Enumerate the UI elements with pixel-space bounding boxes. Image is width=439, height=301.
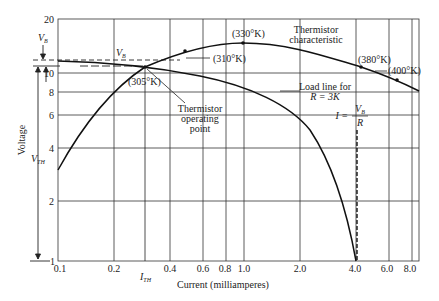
x-tick: 0.1 bbox=[54, 263, 67, 274]
ith-label: ITH bbox=[139, 271, 152, 283]
x-tick: 2.0 bbox=[294, 263, 307, 274]
characteristic-label-line2: characteristic bbox=[289, 34, 343, 45]
x-tick: 0.4 bbox=[164, 263, 177, 274]
label-305k: (305°K) bbox=[128, 76, 161, 88]
y-axis-ticks: 20 10 8 6 4 2 1 bbox=[44, 14, 55, 267]
operating-point-label-line3: point bbox=[190, 123, 211, 134]
x-tick: 1.0 bbox=[238, 263, 251, 274]
label-380k: (380°K) bbox=[358, 54, 391, 66]
x-axis-label: Current (milliamperes) bbox=[177, 279, 269, 291]
y-tick: 20 bbox=[44, 14, 54, 25]
x-axis-ticks: 0.1 0.2 0.4 0.6 0.8 1.0 2.0 4.0 6.0 8.0 bbox=[54, 263, 417, 274]
vb-arrow bbox=[41, 45, 46, 59]
point-310k bbox=[183, 49, 187, 53]
x-tick: 6.0 bbox=[381, 263, 394, 274]
temperature-labels: (305°K) (310°K) (330°K) (380°K) (400°K) bbox=[128, 28, 421, 88]
x-tick: 4.0 bbox=[349, 263, 362, 274]
i-equals-vb-over-r: I = VB R bbox=[334, 103, 368, 128]
y-tick: 6 bbox=[49, 110, 54, 121]
y-tick: 8 bbox=[49, 87, 54, 98]
eq-numerator: VB bbox=[355, 103, 365, 115]
eq-denominator: R bbox=[356, 117, 363, 128]
vb-line-label: VB bbox=[116, 47, 126, 59]
label-330k: (330°K) bbox=[232, 28, 265, 40]
point-330k bbox=[241, 41, 245, 45]
load-line-label-line2: R = 3K bbox=[309, 91, 341, 102]
thermistor-chart: 20 10 8 6 4 2 1 0.1 0.2 0.4 0.6 0.8 1.0 … bbox=[0, 0, 439, 301]
x-tick: 0.8 bbox=[219, 263, 232, 274]
y-axis-label: Voltage bbox=[16, 124, 27, 155]
point-400k bbox=[395, 78, 399, 82]
y-tick: 4 bbox=[49, 143, 54, 154]
label-400k: (400°K) bbox=[388, 65, 421, 77]
y-tick: 2 bbox=[49, 196, 54, 207]
x-tick: 8.0 bbox=[404, 263, 417, 274]
x-tick: 0.6 bbox=[197, 263, 210, 274]
x-tick: 0.2 bbox=[108, 263, 121, 274]
point-380k bbox=[359, 65, 363, 69]
label-310k: (310°K) bbox=[213, 53, 246, 65]
vb-top-label: VB bbox=[38, 32, 48, 44]
eq-i-label: I = bbox=[334, 110, 348, 121]
